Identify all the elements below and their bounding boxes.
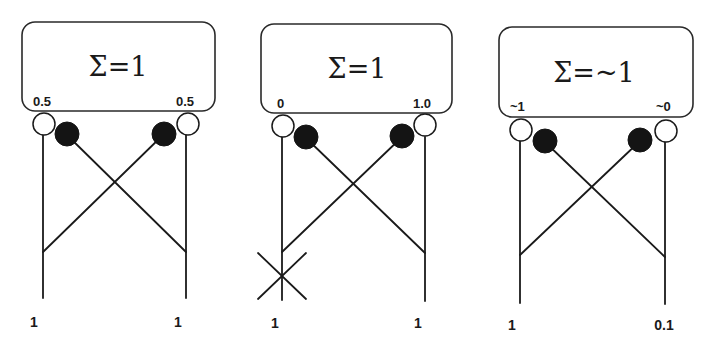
excitatory-synapse-icon [655,120,677,142]
right-input-value: 1 [174,314,182,330]
inhibitory-synapse-icon [55,122,79,146]
cross-inhibition-line-right [520,141,640,255]
cross-inhibition-line-right [282,137,402,252]
circuit-diagram-3: Σ=~1 ~1 ~0 1 0.1 [499,27,693,333]
excitatory-synapse-icon [272,115,294,137]
right-weight-label: 0.5 [176,94,194,109]
left-input-value: 1 [30,314,38,330]
left-input-value: 1 [271,315,279,331]
sum-label: Σ=1 [328,53,387,84]
inhibitory-synapse-icon [628,128,652,152]
cross-inhibition-line-right [43,134,164,252]
excitatory-synapse-icon [33,113,55,135]
excitatory-synapse-icon [510,119,532,141]
left-weight-label: 0.5 [33,94,51,109]
sum-label: Σ=~1 [553,57,635,88]
cross-inhibition-line-left [67,135,186,252]
circuit-diagram-2: Σ=1 0 1.0 1 1 [258,24,452,331]
inhibitory-synapse-icon [152,122,176,146]
inhibitory-synapse-icon [390,124,414,148]
left-weight-label: ~1 [510,99,525,114]
right-weight-label: 1.0 [413,96,431,111]
cross-inhibition-line-left [306,138,425,253]
excitatory-synapse-icon [414,114,436,136]
sum-label: Σ=1 [89,51,148,82]
right-input-value: 0.1 [654,317,674,333]
circuit-diagram-1: Σ=1 0.5 0.5 1 1 [22,22,215,330]
excitatory-synapse-icon [177,113,199,135]
right-weight-label: ~0 [656,99,671,114]
inhibitory-synapse-icon [294,125,318,149]
inhibitory-synapse-icon [533,129,557,153]
right-input-value: 1 [414,315,422,331]
normalization-circuit-figure: Σ=1 0.5 0.5 1 1 Σ=1 0 1.0 1 [0,0,709,349]
left-weight-label: 0 [277,96,284,111]
left-input-value: 1 [508,317,516,333]
cross-inhibition-line-left [545,142,665,257]
